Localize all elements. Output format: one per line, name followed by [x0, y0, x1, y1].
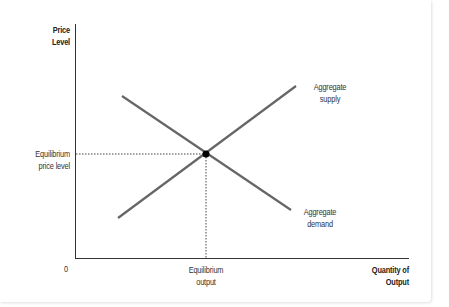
eq-price-label-line2: price level	[21, 160, 70, 172]
y-axis-label-line1: Price	[37, 24, 70, 36]
eq-price-label-line1: Equilibrium	[21, 148, 70, 160]
eq-output-label-line1: Equilibrium	[181, 264, 230, 276]
origin-label: 0	[64, 263, 72, 275]
supply-label-line1: Aggregate	[305, 81, 354, 93]
demand-label-line2: demand	[295, 218, 344, 230]
equilibrium-point	[203, 151, 210, 158]
eq-output-label-line2: output	[181, 276, 230, 288]
supply-label-line2: supply	[305, 93, 354, 105]
x-axis-label-line1: Quantity of	[352, 264, 409, 276]
y-axis-label-line2: Level	[37, 36, 70, 48]
x-axis-label-line2: Output	[352, 276, 409, 288]
demand-label-line1: Aggregate	[295, 206, 344, 218]
